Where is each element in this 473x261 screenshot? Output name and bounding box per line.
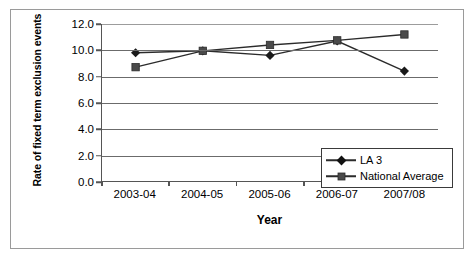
data-point-marker [266, 41, 273, 48]
y-tick-label: 8.0 [48, 71, 94, 83]
y-tick-label: 10.0 [48, 44, 94, 56]
data-point-marker [334, 37, 341, 44]
data-point-marker [265, 51, 274, 60]
x-tick-mark [101, 182, 103, 186]
legend-label-national-average: National Average [357, 170, 444, 182]
x-tick-mark [168, 182, 170, 186]
diamond-marker-icon [325, 153, 357, 167]
x-tick-label: 2004-05 [181, 188, 223, 200]
x-tick-label: 2006-07 [316, 188, 358, 200]
chart-legend: LA 3 National Average [321, 148, 453, 188]
x-tick-label: 2005-06 [248, 188, 290, 200]
gridline [102, 50, 438, 51]
y-tick-mark [96, 155, 101, 157]
y-tick-label: 4.0 [48, 123, 94, 135]
x-tick-label: 2003-04 [114, 188, 156, 200]
chart-figure: Rate of fixed term exclusion events 0.02… [0, 0, 473, 261]
y-tick-mark [96, 23, 101, 25]
y-axis-title: Rate of fixed term exclusion events [31, 0, 43, 200]
y-tick-mark [96, 76, 101, 78]
gridline [102, 77, 438, 78]
gridline [102, 129, 438, 130]
legend-item-la3[interactable]: LA 3 [325, 152, 448, 168]
y-tick-mark [96, 129, 101, 131]
legend-label-la3: LA 3 [357, 154, 382, 166]
data-point-marker [132, 63, 139, 70]
data-point-marker [400, 67, 409, 76]
y-tick-label: 2.0 [48, 150, 94, 162]
y-tick-mark [96, 102, 101, 104]
square-marker-icon [325, 169, 357, 183]
y-tick-label: 12.0 [48, 18, 94, 30]
gridline [102, 24, 438, 25]
y-tick-label: 0.0 [48, 176, 94, 188]
x-axis-title: Year [101, 213, 438, 227]
gridline [102, 103, 438, 104]
x-tick-mark [303, 182, 305, 186]
y-tick-label: 6.0 [48, 97, 94, 109]
x-tick-mark [236, 182, 238, 186]
y-tick-mark [96, 50, 101, 52]
data-point-marker [401, 31, 408, 38]
legend-item-national-average[interactable]: National Average [325, 168, 448, 184]
x-tick-label: 2007/08 [384, 188, 426, 200]
